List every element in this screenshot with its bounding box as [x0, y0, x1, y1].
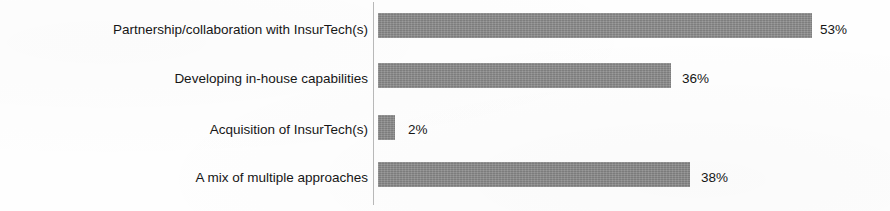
bar [378, 162, 690, 187]
bar-chart: Partnership/collaboration with InsurTech… [0, 0, 890, 211]
bar [378, 63, 671, 88]
bar-value-label: 2% [408, 123, 428, 137]
category-label: Partnership/collaboration with InsurTech… [28, 23, 368, 37]
bar [378, 13, 812, 38]
category-label: Acquisition of InsurTech(s) [28, 123, 368, 137]
category-label: Developing in-house capabilities [28, 72, 368, 86]
category-label: A mix of multiple approaches [28, 171, 368, 185]
bar-value-label: 53% [820, 23, 847, 37]
plot-area: Partnership/collaboration with InsurTech… [0, 0, 890, 211]
bar-value-label: 38% [701, 171, 728, 185]
category-axis-line [373, 2, 374, 205]
bar-value-label: 36% [682, 72, 709, 86]
bar [378, 115, 395, 140]
